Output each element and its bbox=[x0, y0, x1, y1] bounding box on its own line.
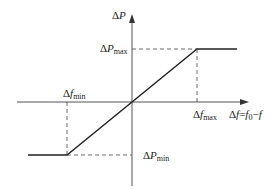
p-max-label: ΔPmax bbox=[100, 43, 128, 56]
subscript-max: max bbox=[114, 47, 128, 56]
subscript-max: max bbox=[203, 113, 217, 122]
var-p: P bbox=[150, 149, 157, 161]
f-min-label: Δfmin bbox=[63, 88, 86, 101]
var-p: P bbox=[119, 9, 126, 21]
p-min-label: ΔPmin bbox=[143, 150, 169, 163]
frequency-power-characteristic-diagram bbox=[0, 0, 271, 190]
x-axis-label: Δf=f0−f bbox=[229, 109, 262, 122]
subscript-min: min bbox=[73, 92, 85, 101]
var-f: f bbox=[259, 108, 262, 120]
x-axis-arrow-icon bbox=[240, 99, 249, 105]
f-max-label: Δfmax bbox=[193, 109, 217, 122]
y-axis-label: ΔP bbox=[112, 10, 126, 21]
subscript-min: min bbox=[157, 154, 169, 163]
y-axis-arrow-icon bbox=[129, 14, 135, 23]
var-p: P bbox=[107, 42, 114, 54]
